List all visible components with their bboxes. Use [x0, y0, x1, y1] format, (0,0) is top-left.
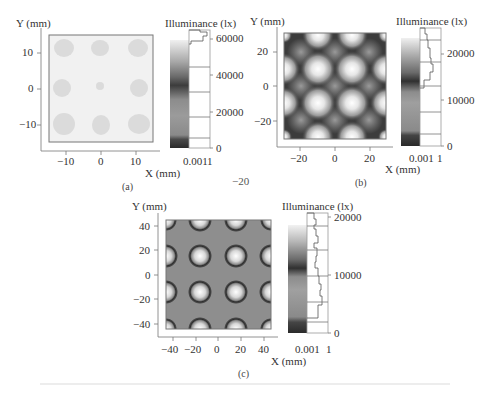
colorbar-a — [170, 40, 189, 148]
xtick-b-2: 20 — [364, 152, 375, 164]
caption-a: (a) — [122, 181, 133, 192]
heatmap-b — [268, 19, 402, 153]
xtick-c-0: −40 — [161, 343, 178, 355]
panel-a — [37, 28, 213, 155]
ytick-c-0: 40 — [139, 220, 150, 232]
histogram-a — [189, 30, 210, 148]
xtick-c-1: −20 — [184, 343, 201, 355]
ylabel-a: Y (mm) — [16, 17, 51, 29]
footer-faint-text — [40, 383, 450, 385]
panel-c — [154, 208, 331, 341]
caption-c: (c) — [238, 368, 249, 379]
ytick-a-0: 10 — [22, 46, 33, 58]
histtick-c-0: 0.001 — [295, 343, 320, 355]
histogram-c — [307, 213, 328, 333]
cbtick-a-2: 20000 — [216, 106, 244, 118]
cbtick-c-0: 20000 — [334, 211, 362, 223]
ytick-b-1: 0 — [263, 80, 269, 92]
xtick-a-0: −10 — [57, 155, 74, 167]
ytick-c-3: −20 — [133, 293, 150, 305]
histtick-c-1: 1 — [326, 343, 332, 355]
figure-canvas — [0, 0, 487, 393]
ytick-b-0: 20 — [257, 45, 268, 57]
histogram-b — [420, 28, 441, 146]
xlabel-c: X (mm) — [271, 355, 306, 367]
colorbar-c — [288, 225, 307, 333]
colorbar-label-b: Illuminance (lx) — [396, 15, 467, 27]
histtick-a-0: 0.001 — [183, 155, 208, 167]
cbtick-b-2: 0 — [447, 140, 453, 152]
ytick-a-1: 0 — [28, 82, 34, 94]
histtick-b-1: 1 — [437, 152, 443, 164]
caption-b: (b) — [355, 177, 367, 188]
xlabel-b: X (mm) — [385, 163, 420, 175]
ytick-c-4: −40 — [133, 318, 150, 330]
ytick-c-1: 20 — [139, 244, 150, 256]
xlabel-a: X (mm) — [145, 167, 180, 179]
xtick-c-3: 20 — [235, 343, 246, 355]
cbtick-c-1: 10000 — [334, 269, 362, 281]
ytick-b-2: −20 — [254, 115, 271, 127]
stray-tick-label: −20 — [232, 175, 249, 187]
xtick-a-1: 0 — [98, 155, 104, 167]
ylabel-c: Y (mm) — [132, 200, 167, 212]
colorbar-label-a: Illuminance (lx) — [165, 17, 236, 29]
ytick-a-2: −10 — [19, 118, 36, 130]
xtick-c-2: 0 — [214, 343, 220, 355]
heatmap-c — [154, 208, 283, 341]
ylabel-b: Y (mm) — [250, 15, 285, 27]
histtick-a-1: 1 — [207, 155, 213, 167]
cbtick-c-2: 0 — [334, 327, 340, 339]
xtick-b-1: 0 — [332, 152, 338, 164]
panel-b — [268, 19, 444, 153]
colorbar-b — [401, 38, 420, 146]
xtick-a-2: 10 — [130, 155, 141, 167]
cbtick-b-0: 20000 — [447, 47, 475, 59]
cbtick-a-1: 40000 — [216, 69, 244, 81]
heatmap-a — [49, 35, 153, 142]
xtick-b-0: −20 — [290, 152, 307, 164]
xtick-c-4: 40 — [258, 343, 269, 355]
cbtick-b-1: 10000 — [447, 94, 475, 106]
cbtick-a-3: 0 — [216, 142, 222, 154]
cbtick-a-0: 60000 — [216, 32, 244, 44]
ytick-c-2: 0 — [145, 269, 151, 281]
